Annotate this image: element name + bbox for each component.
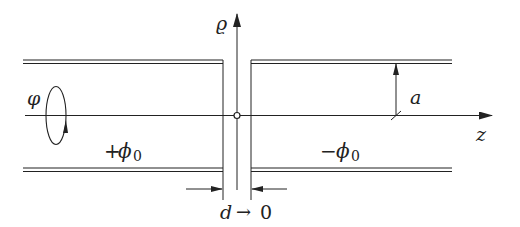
svg-text:−: − <box>320 139 337 163</box>
left-potential-label: + ϕ 0 <box>104 139 142 164</box>
right-potential-label: − ϕ 0 <box>320 139 360 164</box>
svg-text:ϕ: ϕ <box>336 139 350 163</box>
z-label: z <box>475 123 487 145</box>
left-cylinder <box>23 60 223 200</box>
svg-text:0: 0 <box>260 201 272 223</box>
svg-text:→: → <box>236 201 251 222</box>
coaxial-cylinders-diagram: ϱ z φ a + ϕ 0 − ϕ 0 d → 0 <box>0 0 520 227</box>
rho-label: ϱ <box>216 12 228 34</box>
gap-label: d → 0 <box>220 201 272 223</box>
svg-text:0: 0 <box>133 148 142 164</box>
right-cylinder <box>251 60 452 200</box>
svg-text:ϕ: ϕ <box>118 139 132 163</box>
svg-text:0: 0 <box>351 148 360 164</box>
origin-point <box>234 113 240 119</box>
svg-text:d: d <box>220 201 232 223</box>
radius-label: a <box>410 86 421 108</box>
phi-label: φ <box>27 87 41 109</box>
